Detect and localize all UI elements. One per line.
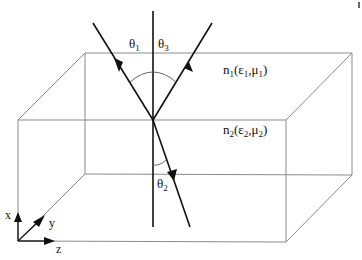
y-axis-label: y (49, 216, 55, 230)
coordinate-axes: x y z (5, 208, 61, 256)
reflected-arrow-icon (184, 62, 193, 72)
refracted-arrow-icon (167, 169, 177, 181)
x-axis-arrow-icon (14, 212, 22, 222)
box-edge-top-left (18, 53, 85, 120)
incident-ray (93, 23, 153, 120)
box-edge-bottom-right (286, 175, 352, 242)
theta2-label: θ2 (157, 176, 168, 193)
medium2-label: n2(ε2,μ2) (223, 122, 267, 139)
y-axis (18, 222, 38, 241)
optics-diagram: θ1 θ3 θ2 n1(ε1,μ1) n2(ε2,μ2) x y z (0, 0, 362, 260)
angle-arc-refracted (153, 160, 166, 165)
z-axis-arrow-icon (44, 237, 55, 245)
box-edge-bottom-back (85, 174, 352, 175)
medium1-label: n1(ε1,μ1) (223, 62, 267, 79)
theta1-label: θ1 (129, 36, 140, 53)
box-edge-top-right (286, 53, 352, 120)
theta3-label: θ3 (158, 36, 169, 53)
x-axis-label: x (5, 208, 11, 222)
z-axis-label: z (56, 242, 61, 256)
